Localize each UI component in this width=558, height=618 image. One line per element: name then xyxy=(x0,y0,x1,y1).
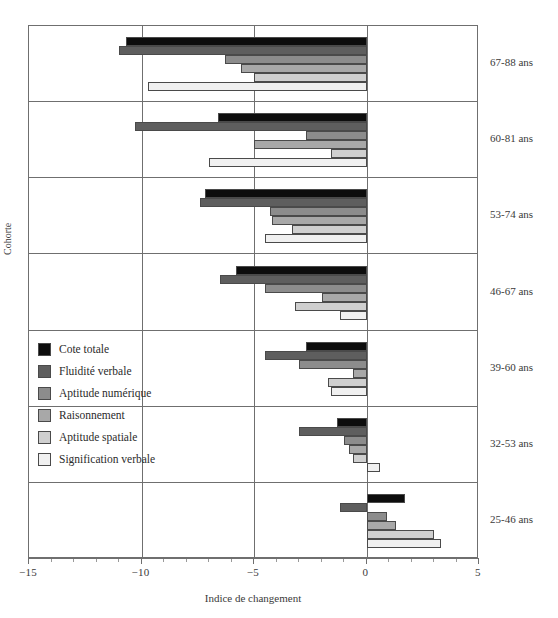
cohort-label: 53-74 ans xyxy=(490,208,533,220)
bar xyxy=(148,82,366,91)
x-axis-label: Indice de changement xyxy=(0,592,506,604)
legend-item: Fluidité verbale xyxy=(38,360,208,382)
bar xyxy=(270,207,367,216)
legend-swatch xyxy=(38,343,51,356)
legend-swatch xyxy=(38,387,51,400)
bar xyxy=(218,113,367,122)
bar xyxy=(367,463,381,472)
bar xyxy=(340,311,367,320)
bar xyxy=(367,494,405,503)
bar xyxy=(272,216,367,225)
legend-swatch xyxy=(38,365,51,378)
y-axis-label: Cohorte xyxy=(2,223,13,255)
legend-label: Aptitude numérique xyxy=(59,387,151,399)
cohort-label: 25-46 ans xyxy=(490,513,533,525)
bar xyxy=(119,46,367,55)
bar xyxy=(295,302,367,311)
bar xyxy=(328,378,366,387)
bar xyxy=(299,427,367,436)
legend-label: Aptitude spatiale xyxy=(59,431,137,443)
bar xyxy=(367,512,387,521)
bar xyxy=(353,369,367,378)
legend-item: Aptitude numérique xyxy=(38,382,208,404)
bar xyxy=(299,360,367,369)
bar xyxy=(353,454,367,463)
legend-label: Signification verbale xyxy=(59,453,155,465)
bar xyxy=(225,55,367,64)
bar xyxy=(254,140,367,149)
legend-label: Fluidité verbale xyxy=(59,365,132,377)
x-tick-label: 0 xyxy=(346,566,386,578)
x-tick-label: −5 xyxy=(233,566,273,578)
legend-label: Cote totale xyxy=(59,343,109,355)
legend-label: Raisonnement xyxy=(59,409,125,421)
x-axis-line xyxy=(28,558,478,559)
bar xyxy=(265,284,366,293)
tick-major xyxy=(478,558,479,564)
cohort-label: 39-60 ans xyxy=(490,361,533,373)
bar xyxy=(241,64,367,73)
bar xyxy=(205,189,367,198)
legend-swatch xyxy=(38,431,51,444)
bar xyxy=(344,436,367,445)
bar xyxy=(209,158,367,167)
bar xyxy=(265,351,366,360)
bar xyxy=(292,225,366,234)
bar xyxy=(306,131,367,140)
x-tick-label: −15 xyxy=(8,566,48,578)
bar xyxy=(126,37,367,46)
bar-series-layer xyxy=(29,26,477,557)
legend-swatch xyxy=(38,453,51,466)
bar xyxy=(322,293,367,302)
legend-item: Aptitude spatiale xyxy=(38,426,208,448)
bar xyxy=(367,539,441,548)
bar xyxy=(367,530,435,539)
bar xyxy=(200,198,367,207)
x-tick-label: −10 xyxy=(121,566,161,578)
legend-swatch xyxy=(38,409,51,422)
x-tick-label: 5 xyxy=(458,566,498,578)
cohort-label: 67-88 ans xyxy=(490,56,533,68)
plot-area xyxy=(28,25,478,558)
cohort-label: 60-81 ans xyxy=(490,132,533,144)
bar xyxy=(340,503,367,512)
bar xyxy=(135,122,367,131)
bar xyxy=(306,342,367,351)
bar xyxy=(349,445,367,454)
bar xyxy=(254,73,367,82)
chart-figure: Cohorte −15−10−505 Indice de changement … xyxy=(0,0,558,618)
bar xyxy=(337,418,366,427)
cohort-label: 32-53 ans xyxy=(490,437,533,449)
chart-legend: Cote totaleFluidité verbaleAptitude numé… xyxy=(38,338,208,470)
legend-item: Raisonnement xyxy=(38,404,208,426)
bar xyxy=(236,266,367,275)
bar xyxy=(331,387,367,396)
legend-item: Cote totale xyxy=(38,338,208,360)
bar xyxy=(265,234,366,243)
bar xyxy=(220,275,366,284)
bar xyxy=(367,521,396,530)
bar xyxy=(331,149,367,158)
legend-item: Signification verbale xyxy=(38,448,208,470)
cohort-label: 46-67 ans xyxy=(490,285,533,297)
